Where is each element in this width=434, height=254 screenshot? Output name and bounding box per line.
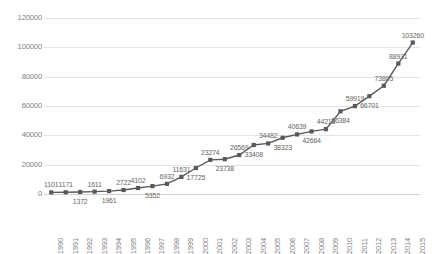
data-point-marker	[324, 127, 328, 131]
x-axis-tick-label: 1996	[129, 236, 138, 252]
x-axis-tick-label: 2007	[288, 236, 297, 252]
data-point-marker	[367, 94, 371, 98]
y-axis-tick-label: 0	[2, 190, 42, 198]
data-point-marker	[93, 190, 97, 194]
data-point-label: 1171	[59, 181, 73, 188]
y-axis-tick-label: 80000	[2, 73, 42, 81]
y-axis-tick-label: 120000	[2, 14, 42, 22]
x-axis-tick-label: 1992	[71, 236, 80, 252]
data-point-marker	[78, 190, 82, 194]
data-point-label: 1611	[87, 180, 101, 187]
data-point-label: 42664	[302, 137, 320, 144]
data-point-label: 103260	[402, 31, 424, 38]
gridline	[44, 194, 420, 195]
data-point-label: 1101	[44, 181, 58, 188]
data-point-marker	[208, 158, 212, 162]
data-point-marker	[252, 143, 256, 147]
data-point-marker	[237, 153, 241, 157]
data-point-label: 88931	[389, 52, 407, 59]
x-axis-tick-label: 2002	[216, 236, 225, 252]
data-point-label: 66701	[360, 102, 378, 109]
data-point-marker	[49, 190, 53, 194]
data-point-marker	[64, 190, 68, 194]
data-point-marker	[223, 157, 227, 161]
x-axis-tick-label: 2011	[346, 236, 355, 252]
x-axis-tick-label: 2006	[274, 236, 283, 252]
data-point-label: 17725	[187, 174, 205, 181]
x-axis-tick-label: 2005	[259, 236, 268, 252]
y-axis-tick-label: 20000	[2, 161, 42, 169]
data-point-label: 6932	[160, 172, 175, 179]
y-axis-tick-label: 100000	[2, 43, 42, 51]
data-point-marker	[266, 141, 270, 145]
x-axis-tick-label: 2003	[230, 236, 239, 252]
x-axis-tick-label: 2004	[245, 236, 254, 252]
x-axis-tick-label: 2010	[331, 236, 340, 252]
data-point-label: 40639	[288, 123, 306, 130]
data-point-label: 38323	[273, 143, 291, 150]
data-point-marker	[121, 188, 125, 192]
x-axis-tick-label: 1993	[86, 236, 95, 252]
data-point-marker	[107, 189, 111, 193]
data-point-marker	[309, 129, 313, 133]
data-point-label: 2722	[116, 179, 131, 186]
data-point-label: 34482	[259, 132, 277, 139]
data-point-marker	[179, 175, 183, 179]
data-point-marker	[194, 166, 198, 170]
x-axis-tick-label: 2012	[360, 236, 369, 252]
data-point-marker	[281, 136, 285, 140]
x-axis-tick-label: 1995	[115, 236, 124, 252]
data-point-marker	[353, 104, 357, 108]
plot-area: 1101117113721611196127224102535269321163…	[44, 18, 420, 194]
data-point-marker	[136, 186, 140, 190]
x-axis-tick-label: 1999	[172, 236, 181, 252]
data-point-marker	[411, 40, 415, 44]
x-axis-tick-label: 1990	[42, 236, 51, 252]
data-point-label: 26569	[230, 144, 248, 151]
data-point-label: 59919	[346, 95, 364, 102]
x-axis-tick-label: 1998	[158, 236, 167, 252]
x-axis-tick-label: 2014	[389, 236, 398, 252]
data-point-marker	[295, 132, 299, 136]
data-point-label: 11631	[172, 165, 190, 172]
y-axis: 020000400006000080000100000120000	[0, 18, 42, 194]
x-axis-tick-label: 2008	[303, 236, 312, 252]
x-axis-tick-label: 2009	[317, 236, 326, 252]
x-axis-tick-label: 1997	[143, 236, 152, 252]
x-axis-tick-label: 2000	[187, 236, 196, 252]
x-axis: 1990199119921993199419951996199719981999…	[44, 198, 420, 244]
data-point-label: 56384	[331, 117, 349, 124]
y-axis-tick-label: 60000	[2, 102, 42, 110]
data-point-marker	[338, 109, 342, 113]
x-axis-tick-label: 1991	[57, 236, 66, 252]
y-axis-tick-label: 40000	[2, 131, 42, 139]
data-point-marker	[382, 84, 386, 88]
data-point-marker	[165, 182, 169, 186]
x-axis-tick-label: 1994	[100, 236, 109, 252]
data-point-label: 4102	[131, 176, 146, 183]
data-point-label: 23274	[201, 148, 219, 155]
x-axis-tick-label: 2015	[404, 236, 413, 252]
x-axis-tick-label: 2001	[201, 236, 210, 252]
x-axis-tick-label: 2013	[375, 236, 384, 252]
data-point-marker	[396, 61, 400, 65]
data-point-label: 73805	[375, 74, 393, 81]
data-point-marker	[150, 184, 154, 188]
data-point-label: 23738	[216, 165, 234, 172]
data-point-label: 33408	[244, 151, 262, 158]
